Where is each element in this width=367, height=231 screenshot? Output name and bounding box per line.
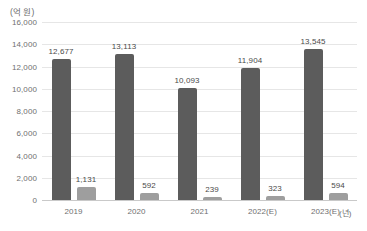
bar-value-label: 13,545 (300, 37, 325, 46)
bar-value-label: 239 (205, 185, 219, 194)
bar: 239 (203, 197, 222, 200)
bar-value-label: 323 (268, 184, 282, 193)
bar: 11,904 (241, 68, 260, 200)
x-axis-tick-label: 2019 (64, 207, 82, 216)
bar-chart: (억 원) 02,0004,0006,0008,00010,00012,0001… (0, 0, 367, 231)
bar-value-label: 12,677 (48, 47, 73, 56)
y-axis-unit-label: (억 원) (10, 5, 35, 17)
y-axis-tick-label: 2,000 (16, 173, 37, 182)
plot-area: 02,0004,0006,0008,00010,00012,00014,0001… (42, 22, 357, 200)
y-axis-tick-label: 4,000 (16, 151, 37, 160)
bar-group: 10,0932392021 (168, 22, 231, 200)
x-axis-tick-label: 2021 (190, 207, 208, 216)
bar-group: 11,9043232022(E) (231, 22, 294, 200)
y-axis-tick-label: 16,000 (12, 18, 37, 27)
y-axis-tick-label: 10,000 (12, 84, 37, 93)
bar-group: 12,6771,1312019 (42, 22, 105, 200)
y-axis-tick-label: 8,000 (16, 107, 37, 116)
bar-value-label: 11,904 (238, 56, 262, 65)
bar-value-label: 1,131 (76, 175, 97, 184)
bar-group: 13,5455942023(E) (294, 22, 357, 200)
bar-value-label: 10,093 (174, 76, 199, 85)
x-axis-unit-label: (년) (339, 207, 351, 218)
x-axis-tick-label: 2022(E) (248, 207, 277, 216)
y-axis-tick-label: 0 (32, 196, 37, 205)
bar: 13,113 (115, 54, 134, 200)
bar: 10,093 (178, 88, 197, 200)
bar: 323 (266, 196, 285, 200)
y-axis-tick-label: 14,000 (12, 40, 37, 49)
bar: 592 (140, 193, 159, 200)
bar: 594 (329, 193, 348, 200)
bar: 12,677 (52, 59, 71, 200)
bar-value-label: 592 (142, 181, 156, 190)
bar: 1,131 (77, 187, 96, 200)
x-axis-line (42, 200, 357, 201)
bar-group: 13,1135922020 (105, 22, 168, 200)
bar: 13,545 (304, 49, 323, 200)
bar-value-label: 13,113 (112, 42, 136, 51)
bar-value-label: 594 (331, 181, 345, 190)
x-axis-tick-label: 2020 (127, 207, 145, 216)
y-axis-tick-label: 12,000 (12, 62, 37, 71)
x-axis-tick-label: 2023(E) (311, 207, 340, 216)
y-axis-tick-label: 6,000 (16, 129, 37, 138)
